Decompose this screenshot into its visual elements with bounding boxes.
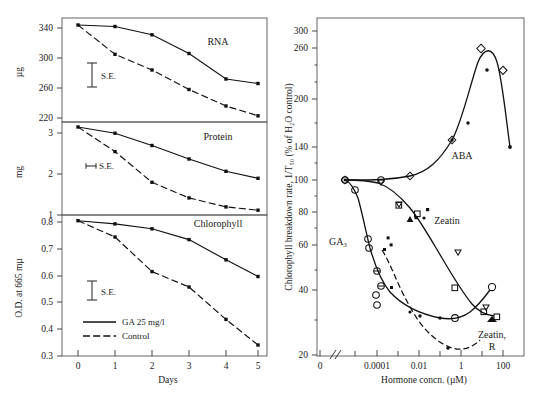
left-xtick-0: 0 (76, 361, 81, 371)
right-xtick-0: 0 (318, 361, 323, 371)
chlorophyll-panel-frame (62, 215, 267, 356)
legend-label-ga: GA 25 mg/l (122, 317, 165, 327)
ga3-open-markers (342, 177, 496, 322)
right-panel: 300 260 200 140 100 80 60 40 20 Chloroph… (284, 18, 524, 386)
chlorophyll-control-markers (113, 235, 259, 346)
chlorophyll-ytick-03: 0.3 (41, 351, 53, 361)
right-x-axis-label: Hormone concn. (µM) (381, 375, 467, 386)
rna-se-bar (87, 63, 97, 87)
chlorophyll-ytick-06: 0.6 (41, 271, 53, 281)
left-xtick-4: 4 (224, 361, 229, 371)
rna-ytick-340: 340 (39, 23, 54, 33)
protein-ytick-2: 2 (48, 169, 53, 179)
chlorophyll-subpanel: 0.8 0.7 0.6 0.5 0.4 0.3 O.D. at 665 mµ C… (14, 217, 260, 361)
right-xtick-100: 100 (496, 361, 511, 371)
protein-subpanel: 3 2 1 mg Protein (14, 125, 260, 220)
ga3-curve (345, 180, 490, 319)
left-x-axis-label: Days (158, 375, 178, 385)
chlorophyll-ytick-07: 0.7 (41, 244, 53, 254)
right-ytick-40: 40 (299, 285, 309, 295)
chlorophyll-se-label: S.E. (101, 287, 116, 297)
right-ytick-20: 20 (299, 350, 309, 360)
protein-panel-label: Protein (204, 131, 233, 142)
right-ytick-300: 300 (294, 26, 309, 36)
right-ytick-200: 200 (294, 94, 309, 104)
rna-ytick-300: 300 (39, 53, 54, 63)
protein-se-label: S.E. (99, 161, 114, 171)
rna-se-label: S.E. (101, 71, 116, 81)
right-ytick-60: 60 (299, 240, 309, 250)
zeatin-r-curve-label-line2: R (489, 341, 496, 352)
rna-control-markers (113, 53, 259, 118)
chlorophyll-se-bar (87, 281, 97, 300)
rna-panel-frame (62, 18, 267, 122)
left-panel-legend: GA 25 mg/l Control (83, 317, 165, 341)
chlorophyll-y-ticks (57, 222, 62, 356)
aba-open-markers (341, 44, 507, 184)
protein-control-markers (113, 150, 259, 212)
chlorophyll-ga-line (78, 221, 258, 277)
rna-ytick-220: 220 (39, 113, 54, 123)
zeatin-r-curve (382, 250, 480, 349)
protein-ytick-3: 3 (48, 128, 53, 138)
right-xtick-001: 0.01 (411, 361, 428, 371)
right-y-ticks (312, 31, 317, 355)
protein-se-bar (86, 163, 96, 169)
legend-label-control: Control (122, 331, 150, 341)
rna-panel-label: RNA (207, 36, 229, 47)
aba-filled-markers (450, 68, 512, 149)
rna-y-axis-label: µg (14, 67, 24, 77)
right-xtick-00001: 0.0001 (364, 361, 390, 371)
rna-y-ticks (57, 28, 62, 118)
zeatin-curve-label: Zeatin (434, 215, 460, 226)
zeatin-r-curve-label-line1: Zeatin, (478, 329, 506, 340)
figure-container: 340 300 260 220 µg RNA (0, 0, 535, 403)
chlorophyll-control-line (78, 221, 258, 345)
left-xtick-1: 1 (113, 361, 118, 371)
chlorophyll-ytick-04: 0.4 (41, 324, 53, 334)
chlorophyll-ytick-08: 0.8 (41, 217, 53, 227)
chlorophyll-ytick-05: 0.5 (41, 297, 53, 307)
rna-subpanel: 340 300 260 220 µg RNA (14, 23, 260, 123)
chlorophyll-panel-label: Chlorophyll (194, 218, 243, 229)
left-xtick-2: 2 (150, 361, 155, 371)
right-ytick-100: 100 (294, 175, 309, 185)
zeatin-r-filled-markers (383, 248, 450, 350)
left-x-ticks (78, 350, 258, 356)
ga3-curve-label: GA₃ (329, 236, 347, 247)
protein-y-ticks (57, 133, 62, 215)
figure-caption (0, 394, 535, 403)
right-ytick-140: 140 (294, 142, 309, 152)
figure-svg: 340 300 260 220 µg RNA (0, 0, 535, 403)
zeatin-curve (345, 180, 494, 316)
left-xtick-5: 5 (256, 361, 261, 371)
protein-panel-frame (62, 122, 267, 215)
aba-curve-label: ABA (451, 150, 473, 161)
right-x-ticks (320, 350, 503, 356)
right-ytick-80: 80 (299, 207, 309, 217)
left-xtick-3: 3 (187, 361, 192, 371)
right-ytick-260: 260 (294, 43, 309, 53)
protein-y-axis-label: mg (14, 166, 24, 178)
x-axis-break-icon (330, 350, 341, 359)
rna-ytick-260: 260 (39, 83, 54, 93)
right-xtick-1: 1 (459, 361, 464, 371)
chlorophyll-y-axis-label: O.D. at 665 mµ (14, 258, 24, 318)
left-panel: 340 300 260 220 µg RNA (14, 18, 267, 385)
right-panel-frame (317, 18, 524, 356)
right-y-axis-label: Chlorophyll breakdown rate, 1/T₅₀ (% of … (284, 83, 295, 290)
